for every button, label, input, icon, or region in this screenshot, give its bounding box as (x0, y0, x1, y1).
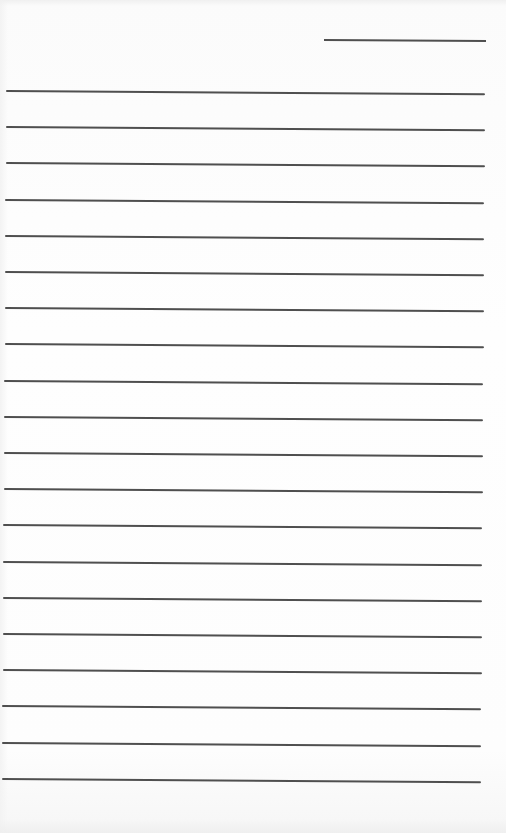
ruled-line (4, 416, 483, 421)
lined-paper-sheet (0, 0, 506, 833)
ruled-line (6, 162, 485, 167)
ruled-line (2, 705, 481, 710)
ruled-line (4, 380, 483, 385)
ruled-line (4, 452, 483, 457)
ruled-line (5, 199, 484, 204)
ruled-line (2, 778, 481, 783)
ruled-line (5, 271, 484, 276)
ruled-line (3, 633, 482, 638)
ruled-line (5, 343, 484, 348)
name-date-line (324, 39, 486, 42)
ruled-line (5, 235, 484, 240)
scan-bottom-shadow (0, 819, 506, 833)
ruled-line (6, 126, 485, 131)
ruled-line (2, 742, 481, 747)
ruled-line (3, 524, 482, 529)
ruled-line (3, 597, 482, 602)
ruled-line (4, 488, 483, 493)
ruled-line (5, 307, 484, 312)
ruled-line (3, 561, 482, 566)
ruled-line (3, 669, 482, 674)
scan-top-shadow (0, 0, 506, 6)
ruled-line (6, 90, 485, 95)
